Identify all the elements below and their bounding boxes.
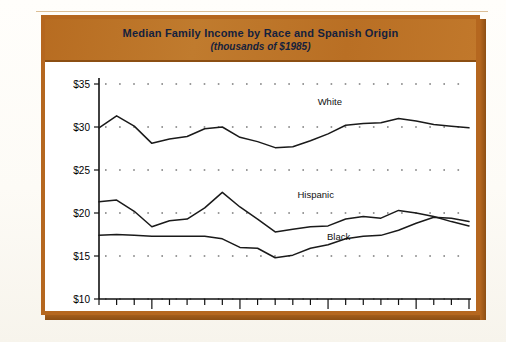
svg-text:$15: $15 [73,251,90,262]
chart-title-band: Median Family Income by Race and Spanish… [45,19,476,62]
svg-text:$30: $30 [73,122,90,133]
svg-text:$25: $25 [73,165,90,176]
series-line-hispanic [99,192,469,232]
grid-dots [105,83,459,299]
series-label-hispanic: Hispanic [297,189,334,200]
line-chart-svg: $35$30$25$20$15$10 19751980198519901993 … [45,62,476,311]
series-lines [99,116,469,258]
chart-axes [99,78,471,299]
page-top-rule [36,11,488,12]
plot-area: $35$30$25$20$15$10 19751980198519901993 … [45,62,476,311]
svg-text:$35: $35 [73,79,90,90]
svg-text:$10: $10 [73,294,90,305]
series-label-white: White [318,96,342,107]
figure-shadow-right [480,19,486,320]
y-axis-tick-labels: $35$30$25$20$15$10 [73,79,90,305]
series-line-black [99,217,469,257]
svg-text:$20: $20 [73,208,90,219]
chart-subtitle: (thousands of $1985) [210,40,310,53]
x-axis-ticks [99,299,469,309]
chart-title: Median Family Income by Race and Spanish… [123,26,399,40]
series-line-white [99,116,469,148]
chart-figure: Median Family Income by Race and Spanish… [41,15,480,315]
series-label-black: Black [327,231,350,242]
